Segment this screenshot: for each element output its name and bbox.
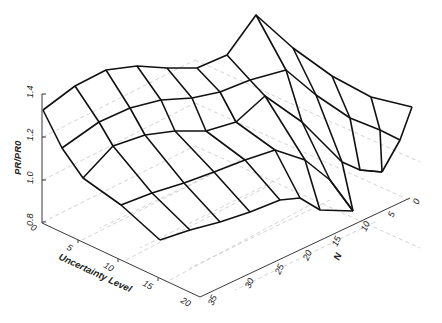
svg-text:15: 15 [141, 278, 156, 292]
surface-plot: 1.4 1.2 1.0 0.8 PR/PR0 0 5 10 15 20 Unce… [0, 0, 442, 323]
mesh-column-line [293, 48, 353, 211]
mesh-column-line [371, 97, 382, 172]
svg-text:0: 0 [411, 197, 422, 206]
svg-text:25: 25 [272, 262, 286, 277]
z-tick-labels: 1.4 1.2 1.0 0.8 [25, 85, 35, 226]
mesh-column-line [256, 15, 353, 211]
n-tick-labels: 0 5 10 15 20 25 30 35 [206, 197, 422, 307]
mesh-column-line [167, 68, 280, 200]
mesh-column-line [137, 66, 250, 212]
svg-text:15: 15 [330, 234, 344, 248]
svg-text:5: 5 [386, 209, 398, 219]
mesh-column-line [382, 107, 412, 172]
svg-text:20: 20 [300, 249, 314, 263]
mesh-row-line [43, 15, 412, 110]
background-grid [43, 60, 420, 290]
uncertainty-tick-labels: 0 5 10 15 20 [29, 222, 193, 309]
svg-text:1.2: 1.2 [25, 128, 35, 141]
svg-text:20: 20 [178, 295, 193, 309]
svg-text:1.0: 1.0 [25, 171, 35, 184]
uncertainty-axis-title: Uncertainty Level [57, 251, 134, 295]
n-axis-line [200, 198, 410, 297]
svg-text:30: 30 [243, 277, 256, 290]
mesh-column-line [227, 55, 320, 210]
svg-text:1.4: 1.4 [25, 85, 35, 98]
svg-text:35: 35 [206, 293, 220, 307]
z-axis-title: PR/PR0 [12, 140, 23, 175]
surface-mesh [43, 15, 412, 240]
mesh-column-line [197, 68, 300, 198]
mesh-column-line [106, 70, 220, 222]
n-axis-title: N [331, 250, 344, 262]
